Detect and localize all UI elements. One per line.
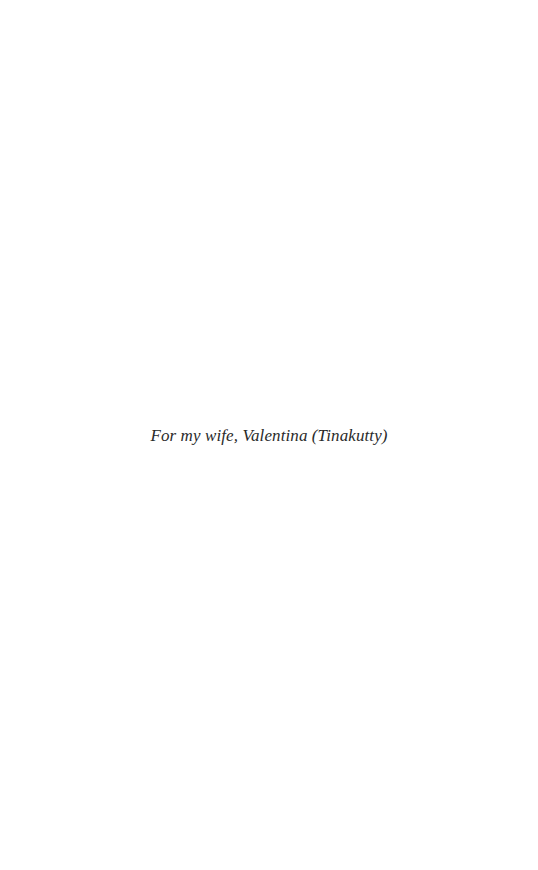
dedication-text: For my wife, Valentina (Tinakutty) bbox=[0, 426, 538, 446]
book-page: For my wife, Valentina (Tinakutty) bbox=[0, 0, 538, 870]
